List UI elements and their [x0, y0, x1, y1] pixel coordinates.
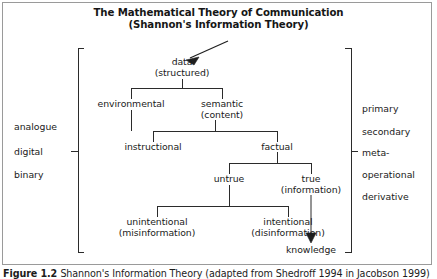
- node-environmental: environmental: [81, 99, 181, 110]
- figure-title-line2: (Shannon's Information Theory): [0, 19, 437, 31]
- figure-container: The Mathematical Theory of Communication…: [0, 0, 437, 279]
- node-instructional: instructional: [108, 142, 198, 153]
- figure-title-line1: The Mathematical Theory of Communication: [93, 7, 343, 18]
- node-true-line1: true: [302, 173, 321, 184]
- right-label-secondary: secondary: [362, 127, 410, 137]
- figure-caption-text: Shannon's Information Theory (adapted fr…: [60, 268, 429, 279]
- node-untrue: untrue: [194, 174, 264, 185]
- node-unintentional: unintentional (misinformation): [98, 217, 216, 238]
- figure-caption-label: Figure 1.2: [3, 268, 57, 279]
- left-label-analogue: analogue: [14, 122, 57, 132]
- node-untrue-line1: untrue: [214, 173, 245, 184]
- node-data-line2: (structured): [132, 68, 232, 79]
- node-knowledge-line1: knowledge: [286, 244, 336, 255]
- node-unintentional-line1: unintentional: [127, 216, 188, 227]
- right-label-primary: primary: [362, 104, 398, 114]
- node-knowledge: knowledge: [268, 245, 354, 256]
- node-intentional-line1: intentional: [263, 216, 312, 227]
- right-label-derivative: derivative: [362, 192, 409, 202]
- right-label-meta: meta-: [362, 148, 389, 158]
- node-semantic-line2: (content): [182, 110, 262, 121]
- node-data: data (structured): [132, 57, 232, 78]
- node-intentional-line2: (disinformation): [229, 228, 347, 239]
- left-label-digital: digital: [14, 147, 43, 157]
- node-data-line1: data: [172, 56, 193, 67]
- figure-title: The Mathematical Theory of Communication…: [0, 7, 437, 32]
- node-true-line2: (information): [268, 185, 354, 196]
- node-factual-line1: factual: [261, 141, 293, 152]
- node-factual: factual: [242, 142, 312, 153]
- node-semantic: semantic (content): [182, 99, 262, 120]
- figure-caption: Figure 1.2 Shannon's Information Theory …: [3, 268, 434, 279]
- node-unintentional-line2: (misinformation): [98, 228, 216, 239]
- right-label-operational: operational: [362, 170, 415, 180]
- node-semantic-line1: semantic: [201, 98, 243, 109]
- left-label-binary: binary: [14, 170, 43, 180]
- node-intentional: intentional (disinformation): [229, 217, 347, 238]
- node-environmental-line1: environmental: [98, 98, 165, 109]
- node-instructional-line1: instructional: [124, 141, 181, 152]
- node-true: true (information): [268, 174, 354, 195]
